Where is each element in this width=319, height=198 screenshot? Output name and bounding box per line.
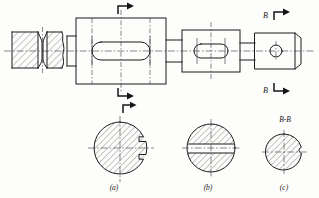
section-arrow-b-top-icon: [283, 9, 290, 16]
view-c-title: B-B: [279, 115, 291, 124]
section-label-b-bottom: B: [263, 86, 268, 95]
view-b-caption: (b): [204, 183, 213, 192]
view-b-hatch-upper: [185, 122, 239, 144]
section-view-a: (a): [88, 102, 154, 192]
view-a-arrow-icon: [130, 102, 137, 108]
left-hatched-collar: [12, 32, 38, 68]
section-arrow-b-bottom-icon: [283, 88, 290, 95]
view-a-caption: (a): [110, 183, 119, 192]
right-connector-edges: [240, 43, 255, 60]
section-mark-top-unlabeled: [118, 3, 134, 14]
section-mark-b-top-corner: [274, 12, 283, 20]
view-a-section-mark: [123, 102, 137, 113]
view-c-caption: (c): [280, 183, 289, 192]
section-mark-b-top: B: [263, 9, 290, 20]
second-hatched-collar: [45, 30, 67, 70]
view-b-hatch-group: [185, 122, 239, 177]
view-a-hatch-fill: [92, 120, 152, 178]
section-view-c: B-B (c): [262, 115, 308, 192]
technical-drawing-canvas: B B (a): [0, 0, 319, 198]
left-collar-hatch-fill: [12, 32, 38, 68]
section-mark-bottom-unlabeled: [118, 88, 134, 99]
section-mark-b-bottom-corner: [274, 83, 283, 91]
view-a-hatch-group: [92, 120, 152, 178]
section-arrow-top-icon: [127, 3, 134, 10]
left-groove: [38, 27, 47, 73]
groove-left-profile: [38, 32, 42, 68]
section-label-b-top: B: [263, 11, 268, 20]
view-b-hatch-lower: [185, 153, 239, 177]
main-front-view: B B: [4, 3, 315, 100]
view-a-mark-corner: [123, 105, 130, 113]
section-arrow-bottom-icon: [127, 93, 134, 100]
section-mark-b-bottom: B: [263, 83, 290, 95]
section-mark-bottom-corner: [118, 88, 127, 96]
groove-right-profile: [43, 32, 47, 68]
drawing-sheet: B B (a): [0, 0, 319, 198]
middle-to-right-connector: [240, 43, 255, 60]
section-view-b: (b): [182, 119, 240, 192]
section-mark-top-corner: [118, 6, 127, 14]
